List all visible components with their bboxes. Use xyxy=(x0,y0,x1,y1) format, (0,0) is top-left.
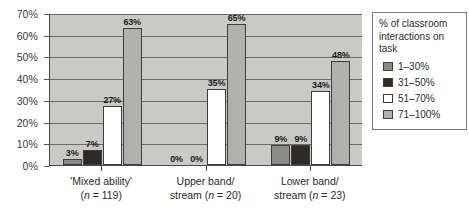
bar-value-label: 35% xyxy=(208,78,225,88)
y-axis-tick-label: 30% xyxy=(17,95,38,107)
bar-value-label: 48% xyxy=(332,50,349,60)
bar-value-label: 27% xyxy=(103,95,120,105)
legend-item: 71–100% xyxy=(383,109,461,120)
bar-value-label: 0% xyxy=(170,154,183,164)
legend-title: % of classroom interactions on task xyxy=(379,18,461,56)
legend: % of classroom interactions on task 1–30… xyxy=(372,12,467,130)
legend-swatch-icon xyxy=(383,62,393,71)
y-axis-tick-label: 0% xyxy=(23,160,38,172)
y-axis: 0%10%20%30%40%50%60%70% xyxy=(0,0,44,180)
y-axis-tick-label: 10% xyxy=(17,138,38,150)
x-axis-category-label: 'Mixed ability'(n = 119) xyxy=(70,175,132,202)
x-axis-category-line2: stream (n = 20) xyxy=(170,189,242,203)
bar-value-label: 9% xyxy=(295,134,308,144)
chart-container: 0%10%20%30%40%50%60%70% 3%7%27%63%0%0%35… xyxy=(0,0,469,214)
bar xyxy=(271,145,290,165)
bar-value-label: 3% xyxy=(66,148,79,158)
bar-group: 0%0%35%65% xyxy=(154,14,258,165)
y-axis-tick-label: 70% xyxy=(17,8,38,20)
y-axis-tick-label: 40% xyxy=(17,73,38,85)
x-axis-tick-mark xyxy=(206,166,207,171)
x-axis-category-line1: 'Mixed ability' xyxy=(70,175,132,189)
y-axis-tick-mark xyxy=(44,166,49,167)
y-axis-tick-label: 60% xyxy=(17,30,38,42)
x-axis-tick-mark xyxy=(310,166,311,171)
x-axis-category-label: Lower band/stream (n = 23) xyxy=(274,175,346,202)
bar-group: 9%9%34%48% xyxy=(259,14,363,165)
bar xyxy=(311,91,330,165)
legend-item-label: 71–100% xyxy=(398,109,440,120)
bar-value-label: 63% xyxy=(123,17,140,27)
bar-value-label: 0% xyxy=(190,154,203,164)
bar xyxy=(227,24,246,165)
legend-item: 31–50% xyxy=(383,77,461,88)
plot-area: 3%7%27%63%0%0%35%65%9%9%34%48% xyxy=(49,14,362,166)
legend-item-label: 1–30% xyxy=(398,61,429,72)
legend-item: 1–30% xyxy=(383,61,461,72)
legend-item-label: 31–50% xyxy=(398,77,435,88)
bar-group: 3%7%27%63% xyxy=(50,14,154,165)
legend-item: 51–70% xyxy=(383,93,461,104)
bar xyxy=(63,159,82,166)
x-axis-category-line1: Lower band/ xyxy=(274,175,346,189)
legend-swatch-icon xyxy=(383,94,393,103)
bar xyxy=(103,106,122,165)
bar xyxy=(331,61,350,165)
x-axis-category-label: Upper band/stream (n = 20) xyxy=(170,175,242,202)
y-axis-tick-label: 20% xyxy=(17,117,38,129)
bar-value-label: 34% xyxy=(312,80,329,90)
x-axis-tick-mark xyxy=(101,166,102,171)
x-axis-category-line1: Upper band/ xyxy=(170,175,242,189)
bar xyxy=(291,145,310,165)
y-axis-tick-label: 50% xyxy=(17,51,38,63)
bar xyxy=(83,150,102,165)
x-axis-category-line2: stream (n = 23) xyxy=(274,189,346,203)
legend-items: 1–30%31–50%51–70%71–100% xyxy=(379,61,461,120)
legend-item-label: 51–70% xyxy=(398,93,435,104)
x-axis-category-line2: (n = 119) xyxy=(70,189,132,203)
bar xyxy=(123,28,142,165)
bar xyxy=(207,89,226,165)
legend-swatch-icon xyxy=(383,78,393,87)
legend-swatch-icon xyxy=(383,110,393,119)
bar-value-label: 65% xyxy=(228,13,245,23)
bar-value-label: 9% xyxy=(275,134,288,144)
bar-value-label: 7% xyxy=(86,139,99,149)
